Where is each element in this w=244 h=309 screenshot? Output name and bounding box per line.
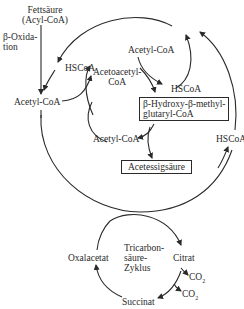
tca-arc-bottom-left xyxy=(96,265,122,297)
tca-arc-left-top xyxy=(97,221,110,250)
co2-label-2: CO2 xyxy=(182,289,198,299)
oxaloacetate-label: Oxalacetat xyxy=(68,253,109,263)
acetyl-coa-top-label: Acetyl-CoA xyxy=(128,45,174,55)
co2-text-2: CO xyxy=(182,289,195,299)
hmg-coa-box: β-Hydroxy-β-methyl- glutaryl-CoA xyxy=(139,97,229,121)
tca-line1: Tricarbon- xyxy=(124,243,164,253)
acetoacetic-acid-box: Acetessigsäure xyxy=(121,160,192,174)
fatty-acid-label: Fettsäure (Acyl-CoA) xyxy=(22,5,68,25)
acetoacetyl-coa-label: Acetoacetyl- CoA xyxy=(93,67,142,87)
arc-to-hscoa-right-arrow xyxy=(218,147,228,168)
hmg-coa-line2: glutaryl-CoA xyxy=(143,109,225,119)
hscoa-mid-label: HSCoA xyxy=(171,84,201,94)
co2-arrow-1 xyxy=(181,268,188,275)
beta-oxidation-line1: β-Oxida- xyxy=(3,32,37,42)
acetyl-coa-left-label: Acetyl-CoA xyxy=(14,97,60,107)
citrate-label: Citrat xyxy=(173,253,195,263)
co2-arrow-2 xyxy=(174,284,181,291)
co2-label-1: CO2 xyxy=(189,272,205,282)
hmg-to-acetessig-arrow xyxy=(148,127,152,158)
tca-cycle-label: Tricarbon- säure- Zyklus xyxy=(124,243,164,273)
acetoacetyl-line2: CoA xyxy=(93,77,142,87)
co2-sub-1: 2 xyxy=(202,278,205,284)
inner-right-arc xyxy=(176,35,191,88)
tca-arc-top-right xyxy=(110,215,181,245)
hscoa-left-label: HSCoA xyxy=(65,63,95,73)
fatty-acid-line2: (Acyl-CoA) xyxy=(22,15,68,25)
beta-oxidation-label: β-Oxida- tion xyxy=(3,32,37,52)
fatty-acid-line1: Fettsäure xyxy=(22,5,68,15)
acetoacetyl-to-hmg-arrow xyxy=(140,68,155,92)
hmg-coa-line1: β-Hydroxy-β-methyl- xyxy=(143,99,225,109)
beta-oxidation-line2: tion xyxy=(3,42,37,52)
tca-line2: säure- xyxy=(124,253,164,263)
succinate-label: Succinat xyxy=(122,297,155,307)
tca-line3: Zyklus xyxy=(124,263,164,273)
co2-text-1: CO xyxy=(189,272,202,282)
acetyl-coa-lower-label: Acetyl-CoA xyxy=(93,134,139,144)
tca-arc-right-bottom xyxy=(158,271,181,298)
hmg-to-acetyl-arrow xyxy=(138,124,154,138)
acetoacetyl-line1: Acetoacetyl- xyxy=(93,67,142,77)
hscoa-to-acetyl-arrow xyxy=(44,70,55,90)
outer-cycle-top-arc xyxy=(58,18,172,62)
co2-sub-2: 2 xyxy=(195,295,198,301)
hscoa-right-label: HSCoA xyxy=(216,134,244,144)
